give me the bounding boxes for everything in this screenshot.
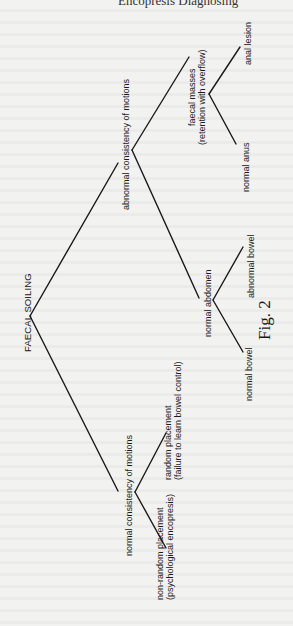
- node-anal-lesion: anal lesion: [243, 22, 253, 65]
- random-placement-line2: (failure to learn bowel control): [173, 361, 183, 480]
- node-abnormal-bowel: abnormal bowel: [246, 234, 256, 298]
- edge-abdomen-abnormal-bowel: [213, 247, 243, 300]
- random-placement-line1: random placement: [163, 361, 173, 480]
- node-normal-abdomen: normal abdomen: [203, 269, 213, 337]
- edge-faecal-anal: [209, 47, 240, 94]
- node-random-placement: random placement (failure to learn bowel…: [163, 361, 183, 480]
- edge-root-abnormal: [30, 163, 118, 316]
- faecal-masses-line1: faecal masses: [187, 49, 197, 145]
- node-abnormal-consistency: abnormal consistency of motions: [121, 79, 131, 210]
- node-normal-anus: normal anus: [241, 142, 251, 192]
- faecal-masses-line2: (retention with overflow): [197, 49, 207, 145]
- edge-abnormal-faecal: [132, 57, 189, 150]
- node-normal-consistency: normal consistency of motions: [124, 435, 134, 556]
- node-faecal-soiling: FAECAL SOILING: [23, 273, 33, 352]
- figure-caption: Fig. 2: [255, 300, 275, 340]
- node-normal-bowel: normal bowel: [244, 347, 254, 401]
- edge-root-normal: [30, 316, 118, 491]
- edge-normal-random: [135, 433, 166, 492]
- node-faecal-masses: faecal masses (retention with overflow): [187, 49, 207, 145]
- edge-abnormal-abdomen: [132, 150, 199, 298]
- non-random-placement-line2: (psychological encopresis): [165, 494, 175, 600]
- tree-edges: [0, 0, 293, 626]
- edge-abdomen-normal-bowel: [213, 300, 243, 352]
- non-random-placement-line1: non-random placement: [155, 494, 165, 600]
- edge-faecal-anus: [209, 94, 236, 144]
- node-non-random-placement: non-random placement (psychological enco…: [155, 494, 175, 600]
